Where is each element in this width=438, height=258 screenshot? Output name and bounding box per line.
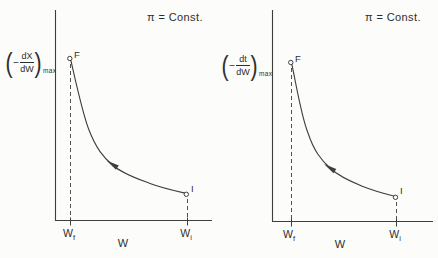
- right-plot-point-i-marker: [393, 195, 397, 199]
- right-plot-condition-annotation: π = Const.: [365, 11, 421, 23]
- wi-sub: i: [399, 234, 401, 243]
- right-plot-axes: [273, 10, 434, 222]
- wf-sub: f: [293, 234, 295, 243]
- fraction-numerator: dt: [239, 54, 247, 65]
- minus-sign: −: [13, 58, 19, 68]
- figure-canvas: [0, 0, 438, 258]
- right-plot: [273, 10, 434, 227]
- wi-base: W: [389, 228, 399, 240]
- wf-sub: f: [73, 233, 75, 242]
- close-paren: ): [250, 51, 257, 79]
- right-plot-y-axis-label: ( − dt dW ) max: [221, 54, 272, 79]
- right-plot-point-i-label: I: [400, 185, 403, 196]
- open-paren: (: [222, 51, 229, 79]
- close-paren: ): [34, 48, 41, 76]
- left-plot-curve: [71, 59, 187, 194]
- right-plot-wf-tick-label: Wf: [283, 228, 295, 243]
- fraction-denominator: dW: [236, 65, 250, 78]
- left-plot-wi-tick-label: Wi: [180, 227, 192, 242]
- minus-sign: −: [229, 61, 235, 71]
- right-plot-wi-tick-label: Wi: [389, 228, 401, 243]
- left-plot-x-axis-label: W: [118, 237, 128, 249]
- left-plot-y-axis-label: ( − dX dW ) max: [5, 51, 56, 76]
- dual-plot-figure: π = Const. ( − dX dW ) max F I Wf Wi W π…: [0, 0, 438, 258]
- wf-base: W: [283, 228, 293, 240]
- right-plot-point-f-marker: [289, 60, 293, 64]
- left-plot-point-f-label: F: [74, 49, 80, 60]
- left-plot: [56, 10, 213, 226]
- left-plot-point-i-label: I: [191, 183, 194, 194]
- left-plot-point-f-marker: [68, 56, 72, 60]
- left-plot-wf-tick-label: Wf: [63, 227, 75, 242]
- right-plot-curve: [292, 63, 396, 197]
- left-plot-axes: [56, 10, 213, 221]
- derivative-fraction: dX dW: [20, 51, 34, 76]
- fraction-denominator: dW: [20, 62, 34, 75]
- wf-base: W: [63, 227, 73, 239]
- right-plot-x-axis-label: W: [335, 238, 345, 250]
- fraction-numerator: dX: [21, 51, 32, 62]
- wi-sub: i: [190, 233, 192, 242]
- left-plot-condition-annotation: π = Const.: [147, 11, 203, 23]
- wi-base: W: [180, 227, 190, 239]
- max-subscript: max: [259, 71, 272, 78]
- left-plot-x-ticks: [71, 218, 188, 226]
- right-plot-x-ticks: [292, 219, 397, 227]
- right-plot-point-f-label: F: [295, 53, 301, 64]
- left-plot-point-i-marker: [184, 192, 188, 196]
- max-subscript: max: [43, 68, 56, 75]
- derivative-fraction: dt dW: [236, 54, 250, 79]
- open-paren: (: [6, 48, 13, 76]
